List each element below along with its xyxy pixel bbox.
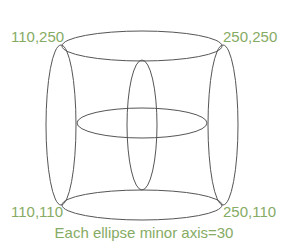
coordinate-label-bottom-left: 110,110 xyxy=(11,204,63,219)
coordinate-label-top-right: 250,250 xyxy=(223,29,277,44)
ellipse-bottom-horizontal xyxy=(62,190,222,220)
ellipse-middle-horizontal xyxy=(77,108,207,138)
ellipse-top-horizontal xyxy=(62,31,222,61)
figure-caption: Each ellipse minor axis=30 xyxy=(0,224,288,241)
coordinate-label-bottom-right: 250,110 xyxy=(223,204,276,219)
ellipse-right-vertical xyxy=(208,45,238,205)
ellipse-middle-vertical xyxy=(127,60,157,190)
coordinate-label-top-left: 110,250 xyxy=(11,29,64,44)
ellipse-left-vertical xyxy=(46,45,76,205)
ellipse-diagram: 110,250 250,250 110,110 250,110 Each ell… xyxy=(0,0,288,249)
